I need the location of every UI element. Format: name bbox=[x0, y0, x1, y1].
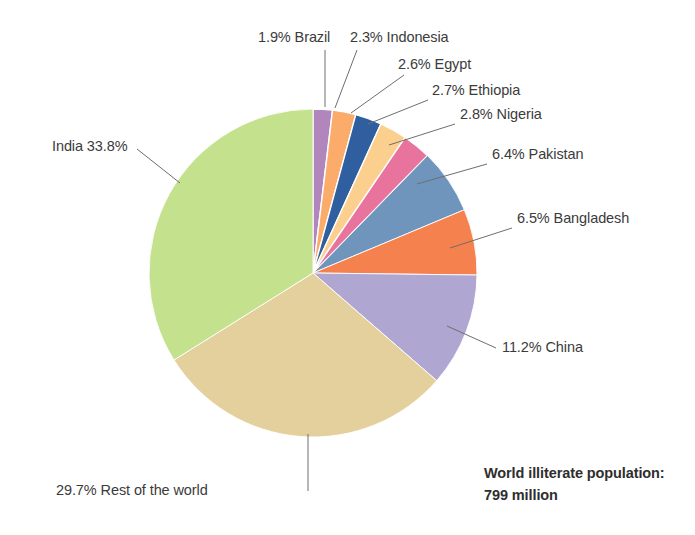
leader-line-india bbox=[137, 149, 180, 183]
slice-label-rest-of-world: 29.7% Rest of the world bbox=[56, 483, 208, 499]
total-caption-line-2: 799 million bbox=[484, 484, 665, 506]
slice-label-india: India 33.8% bbox=[52, 139, 128, 155]
slice-label-china: 11.2% China bbox=[502, 340, 583, 356]
total-caption: World illiterate population: 799 million bbox=[484, 462, 665, 507]
slice-label-brazil: 1.9% Brazil bbox=[258, 30, 330, 46]
slice-label-egypt: 2.6% Egypt bbox=[398, 57, 471, 73]
total-caption-line-1: World illiterate population: bbox=[484, 462, 665, 484]
leader-line-indonesia bbox=[335, 50, 357, 108]
leader-line-ethiopia bbox=[368, 100, 428, 124]
slice-label-ethiopia: 2.7% Ethiopia bbox=[432, 83, 520, 99]
slice-label-bangladesh: 6.5% Bangladesh bbox=[517, 211, 629, 227]
slice-label-indonesia: 2.3% Indonesia bbox=[350, 30, 449, 46]
slice-label-nigeria: 2.8% Nigeria bbox=[460, 107, 542, 123]
pie-chart-svg: 1.9% Brazil2.3% Indonesia2.6% Egypt2.7% … bbox=[0, 0, 695, 535]
slice-label-pakistan: 6.4% Pakistan bbox=[492, 147, 583, 163]
leader-line-egypt bbox=[351, 75, 404, 113]
pie-slice-group: 1.9% Brazil2.3% Indonesia2.6% Egypt2.7% … bbox=[149, 109, 477, 437]
pie-chart-figure: 1.9% Brazil2.3% Indonesia2.6% Egypt2.7% … bbox=[0, 0, 695, 535]
